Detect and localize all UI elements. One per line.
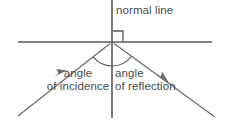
angle-of-incidence-line-1: angle xyxy=(64,67,93,79)
angle-of-reflection-arc xyxy=(112,56,132,66)
angle-of-incidence-arc xyxy=(93,57,112,66)
angle-of-reflection-line-2: of reflection xyxy=(115,80,195,93)
angle-of-reflection-line-1: angle xyxy=(115,67,144,79)
diagram-canvas xyxy=(0,0,225,123)
right-angle-marker-icon xyxy=(113,31,123,42)
normal-line-label: normal line xyxy=(116,4,173,17)
angle-of-incidence-line-2: of incidence xyxy=(46,80,110,93)
angle-of-reflection-label: angle of reflection xyxy=(115,67,195,93)
angle-of-incidence-label: angle of incidence xyxy=(46,67,110,93)
reflection-diagram: normal line angle of incidence angle of … xyxy=(0,0,225,123)
